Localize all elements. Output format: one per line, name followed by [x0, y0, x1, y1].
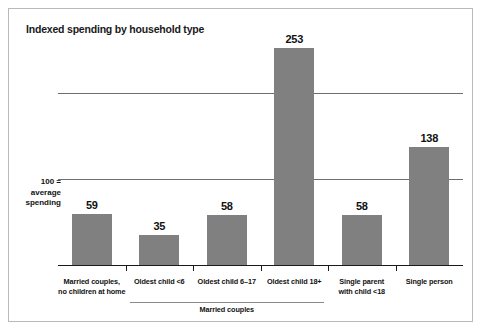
category-label: Oldest child 6–17 [193, 277, 261, 287]
x-axis-tick [396, 265, 397, 271]
bar-value-label: 138 [421, 132, 438, 144]
bar[interactable] [207, 215, 247, 265]
bar-value-label: 58 [221, 200, 233, 212]
bar[interactable] [409, 147, 449, 265]
bar-slot: 58 [328, 42, 396, 265]
group-bracket-label: Married couples [130, 305, 325, 314]
bar-slot: 59 [58, 42, 126, 265]
category-label-line-1: Single person [396, 277, 464, 287]
x-axis-tick [193, 265, 194, 271]
bar-slot: 35 [126, 42, 194, 265]
category-label: Oldest child 18+ [261, 277, 329, 287]
axis-note-line-1: 100 = [13, 177, 61, 188]
bar[interactable] [139, 235, 179, 265]
category-label-line-1: Married couples, [58, 277, 126, 287]
x-axis-tick [328, 265, 329, 271]
bar-value-label: 58 [356, 200, 368, 212]
bar-slot: 58 [193, 42, 261, 265]
chart-figure: Indexed spending by household type 100 =… [8, 8, 473, 322]
bar[interactable] [274, 48, 314, 265]
category-label: Single person [396, 277, 464, 287]
category-label-line-1: Oldest child 18+ [261, 277, 329, 287]
category-label-line-1: Oldest child <6 [126, 277, 194, 287]
category-label-line-2: no children at home [58, 287, 126, 297]
axis-note-line-3: spending [13, 198, 61, 209]
bar[interactable] [72, 214, 112, 265]
bar[interactable] [342, 215, 382, 265]
group-bracket-line [130, 302, 325, 303]
chart-title: Indexed spending by household type [26, 23, 204, 35]
category-label: Married couples,no children at home [58, 277, 126, 297]
bar-slot: 138 [396, 42, 464, 265]
x-axis-tick [126, 265, 127, 271]
axis-note-line-2: average [13, 188, 61, 199]
x-axis-tick [261, 265, 262, 271]
bar-value-label: 35 [153, 220, 165, 232]
category-label: Oldest child <6 [126, 277, 194, 287]
bar-value-label: 59 [86, 199, 98, 211]
category-label: Single parentwith child <18 [328, 277, 396, 297]
y-axis-annotation: 100 = average spending [13, 177, 61, 209]
plot-area: 59355825358138 [58, 42, 463, 265]
bar-slot: 253 [261, 42, 329, 265]
category-label-line-2: with child <18 [328, 287, 396, 297]
category-label-line-1: Oldest child 6–17 [193, 277, 261, 287]
bar-value-label: 253 [286, 33, 303, 45]
category-label-line-1: Single parent [328, 277, 396, 287]
